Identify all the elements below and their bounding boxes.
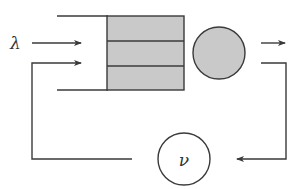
server-circle: [193, 27, 245, 79]
queue-feedback-diagram: λ ν: [0, 0, 305, 189]
queue-buffer: [107, 16, 184, 90]
arrival-rate-label: λ: [9, 33, 21, 53]
feedback-out-arrow: [237, 63, 286, 159]
queue-box: [107, 16, 184, 90]
feedback-node-label: ν: [179, 150, 189, 170]
